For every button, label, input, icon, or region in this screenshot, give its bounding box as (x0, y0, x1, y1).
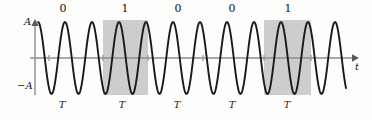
bit-label: 0 (168, 3, 188, 15)
period-label: T (277, 99, 297, 111)
bit-label: 0 (222, 3, 242, 15)
time-axis-label: t (355, 61, 359, 72)
waveform-figure: A −A t 01001 TTTTT (0, 0, 372, 120)
period-label: T (52, 99, 72, 111)
bit-label: 1 (115, 3, 135, 15)
period-label: T (167, 99, 187, 111)
period-label: T (222, 99, 242, 111)
bit-label: 1 (278, 3, 298, 15)
bit-label: 0 (53, 3, 73, 15)
period-label: T (112, 99, 132, 111)
amplitude-negative-label: −A (17, 80, 33, 91)
amplitude-positive-label: A (24, 16, 31, 27)
